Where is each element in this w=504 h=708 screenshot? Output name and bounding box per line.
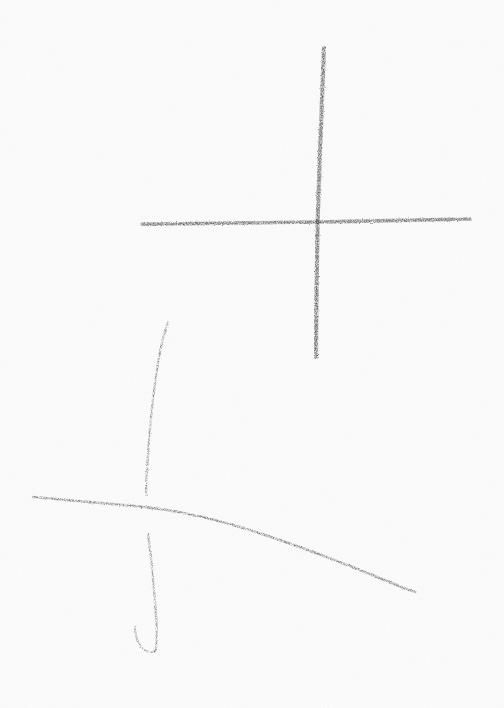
drawing-canvas	[0, 0, 504, 708]
sketch-svg	[0, 0, 504, 708]
paper-texture-overlay	[0, 0, 504, 708]
